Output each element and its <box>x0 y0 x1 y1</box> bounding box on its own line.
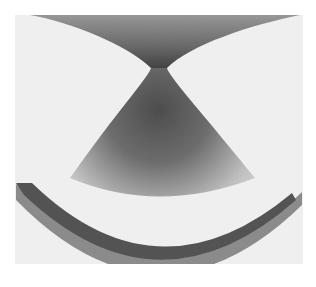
beam-illustration <box>0 0 316 287</box>
beam-figure <box>0 0 316 287</box>
